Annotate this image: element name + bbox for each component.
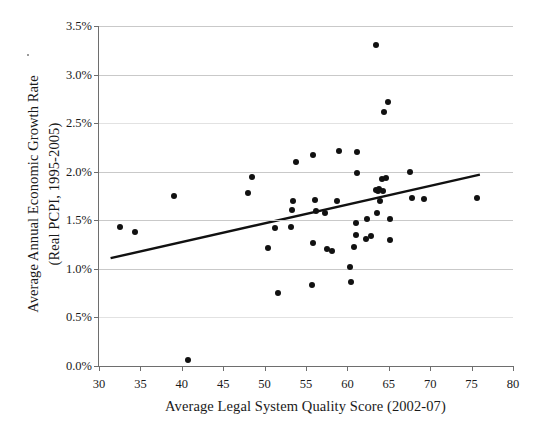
trendline bbox=[99, 26, 513, 366]
scatter-point bbox=[290, 198, 296, 204]
y-gridline bbox=[99, 26, 513, 27]
scatter-point bbox=[387, 216, 393, 222]
scatter-point bbox=[354, 170, 360, 176]
scatter-point bbox=[329, 248, 335, 254]
plot-area: 0.0%0.5%1.0%1.5%2.0%2.5%3.0%3.5%30354045… bbox=[98, 26, 513, 367]
y-gridline bbox=[99, 220, 513, 221]
x-tick-mark bbox=[182, 366, 183, 371]
y-tick-mark bbox=[94, 220, 99, 221]
scatter-point bbox=[171, 193, 177, 199]
scatter-point bbox=[293, 159, 299, 165]
x-tick-label: 80 bbox=[507, 377, 520, 392]
scatter-point bbox=[421, 196, 427, 202]
y-axis-title-line-1: Average Annual Economic Growth Rate bbox=[23, 18, 44, 370]
scatter-point bbox=[387, 237, 393, 243]
x-tick-mark bbox=[389, 366, 390, 371]
scatter-point bbox=[347, 264, 353, 270]
scatter-point bbox=[353, 232, 359, 238]
scatter-point bbox=[288, 224, 294, 230]
scatter-point bbox=[249, 174, 255, 180]
scatter-point bbox=[309, 282, 315, 288]
x-tick-mark bbox=[513, 366, 514, 371]
y-tick-label: 2.5% bbox=[66, 116, 92, 131]
x-tick-label: 55 bbox=[300, 377, 313, 392]
scatter-point bbox=[353, 220, 359, 226]
scatter-point bbox=[474, 195, 480, 201]
scatter-point bbox=[322, 210, 328, 216]
y-gridline bbox=[99, 269, 513, 270]
y-tick-mark bbox=[94, 123, 99, 124]
scatter-point bbox=[245, 190, 251, 196]
x-tick-label: 35 bbox=[134, 377, 147, 392]
scatter-point bbox=[334, 198, 340, 204]
scatter-point bbox=[373, 42, 379, 48]
scatter-point bbox=[313, 208, 319, 214]
scatter-point bbox=[368, 233, 374, 239]
x-tick-mark bbox=[99, 366, 100, 371]
x-tick-mark bbox=[430, 366, 431, 371]
scatter-point bbox=[310, 240, 316, 246]
y-tick-label: 1.0% bbox=[66, 261, 92, 276]
top-edge-artifact: —— · bbox=[120, 0, 240, 5]
scatter-point bbox=[407, 169, 413, 175]
scatter-point bbox=[185, 357, 191, 363]
y-gridline bbox=[99, 172, 513, 173]
x-tick-label: 70 bbox=[424, 377, 437, 392]
scatter-point bbox=[265, 245, 271, 251]
y-tick-label: 3.0% bbox=[66, 67, 92, 82]
y-tick-mark bbox=[94, 269, 99, 270]
scatter-chart-figure: —— · Average Annual Economic Growth Rate… bbox=[0, 0, 541, 432]
x-tick-mark bbox=[265, 366, 266, 371]
y-tick-label: 2.0% bbox=[66, 164, 92, 179]
x-tick-label: 45 bbox=[217, 377, 230, 392]
y-axis-title: Average Annual Economic Growth Rate (Rea… bbox=[23, 18, 67, 370]
x-tick-label: 75 bbox=[465, 377, 478, 392]
y-tick-label: 0.0% bbox=[66, 359, 92, 374]
x-tick-label: 60 bbox=[341, 377, 354, 392]
y-gridline bbox=[99, 123, 513, 124]
scatter-point bbox=[374, 210, 380, 216]
x-axis-title: Average Legal System Quality Score (2002… bbox=[98, 398, 513, 415]
scatter-point bbox=[275, 290, 281, 296]
scatter-point bbox=[117, 224, 123, 230]
scatter-point bbox=[354, 149, 360, 155]
x-tick-mark bbox=[347, 366, 348, 371]
scatter-point bbox=[289, 207, 295, 213]
x-tick-label: 40 bbox=[176, 377, 189, 392]
x-tick-label: 50 bbox=[258, 377, 271, 392]
y-tick-mark bbox=[94, 317, 99, 318]
scatter-point bbox=[272, 225, 278, 231]
y-gridline bbox=[99, 317, 513, 318]
scatter-point bbox=[364, 216, 370, 222]
scatter-point bbox=[351, 244, 357, 250]
scatter-point bbox=[348, 279, 354, 285]
y-tick-mark bbox=[94, 26, 99, 27]
x-tick-label: 30 bbox=[93, 377, 106, 392]
scatter-point bbox=[385, 99, 391, 105]
scatter-point bbox=[381, 109, 387, 115]
scatter-point bbox=[132, 229, 138, 235]
x-tick-mark bbox=[306, 366, 307, 371]
x-tick-mark bbox=[472, 366, 473, 371]
y-gridline bbox=[99, 75, 513, 76]
y-axis-title-line-2: (Real PCPI, 1995-2005) bbox=[44, 18, 65, 370]
y-tick-label: 3.5% bbox=[66, 19, 92, 34]
scatter-point bbox=[383, 175, 389, 181]
y-tick-label: 0.5% bbox=[66, 310, 92, 325]
x-tick-mark bbox=[140, 366, 141, 371]
scatter-point bbox=[377, 198, 383, 204]
y-tick-label: 1.5% bbox=[66, 213, 92, 228]
scatter-point bbox=[336, 148, 342, 154]
x-tick-mark bbox=[223, 366, 224, 371]
x-tick-label: 65 bbox=[383, 377, 396, 392]
y-tick-mark bbox=[94, 75, 99, 76]
scatter-point bbox=[409, 195, 415, 201]
scatter-point bbox=[312, 197, 318, 203]
scatter-point bbox=[310, 152, 316, 158]
y-tick-mark bbox=[94, 172, 99, 173]
scatter-point bbox=[380, 188, 386, 194]
